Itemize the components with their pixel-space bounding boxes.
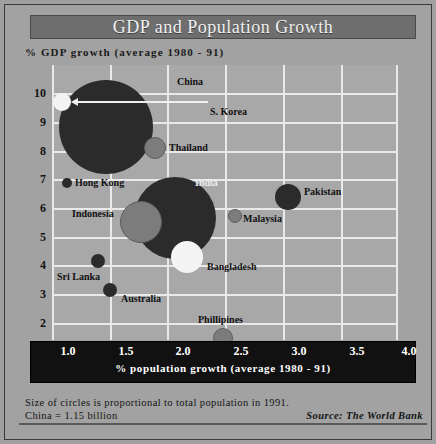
- plot-area: China S. Korea Thailand Hong Kong India …: [52, 65, 398, 340]
- bubble-thailand[interactable]: [144, 137, 166, 159]
- x-tick-2.0: 2.0: [176, 344, 191, 359]
- y-tick-9: 9: [16, 115, 46, 130]
- chart-page: GDP and Population Growth % GDP growth (…: [0, 0, 436, 444]
- bubble-china[interactable]: [59, 80, 153, 174]
- x-tick-3.5: 3.5: [350, 344, 365, 359]
- page-title: GDP and Population Growth: [113, 18, 333, 36]
- bubble-hongkong[interactable]: [62, 178, 72, 188]
- y-tick-7: 7: [16, 172, 46, 187]
- y-tick-5: 5: [16, 230, 46, 245]
- bubble-bangladesh[interactable]: [171, 241, 203, 273]
- footnote-line1: Size of circles is proportional to total…: [25, 397, 423, 408]
- y-tick-2: 2: [16, 316, 46, 331]
- y-tick-6: 6: [16, 201, 46, 216]
- gridline-v-3.5: [341, 65, 343, 340]
- chart-footnote: Size of circles is proportional to total…: [25, 397, 423, 421]
- bubble-indonesia[interactable]: [120, 201, 162, 243]
- label-srilanka: Sri Lanka: [57, 271, 100, 282]
- label-malaysia: Malaysia: [243, 213, 282, 224]
- label-phillipines: Phillipines: [198, 314, 243, 325]
- x-tick-2.5: 2.5: [234, 344, 249, 359]
- y-tick-3: 3: [16, 287, 46, 302]
- label-india: India: [195, 177, 218, 188]
- label-bangladesh: Bangladesh: [207, 261, 256, 272]
- y-tick-8: 8: [16, 144, 46, 159]
- footer-divider: [19, 423, 427, 425]
- chart-frame: GDP and Population Growth % GDP growth (…: [4, 4, 432, 440]
- x-tick-1.5: 1.5: [119, 344, 134, 359]
- bubble-malaysia[interactable]: [228, 209, 242, 223]
- gridline-v-4.0: [396, 65, 398, 340]
- gridline-h-5: [52, 237, 398, 239]
- bubble-australia[interactable]: [103, 283, 117, 297]
- x-tick-1.0: 1.0: [61, 344, 76, 359]
- label-thailand: Thailand: [169, 142, 208, 153]
- y-tick-10: 10: [16, 86, 46, 101]
- footnote-source: Source: The World Bank: [306, 410, 423, 421]
- skorea-arrow-head: [71, 98, 78, 106]
- footnote-line2: China = 1.15 billion: [25, 410, 118, 421]
- x-axis-caption: % population growth (average 1980 - 91): [31, 362, 415, 374]
- x-tick-3.0: 3.0: [292, 344, 307, 359]
- bubble-skorea[interactable]: [53, 93, 71, 111]
- x-axis-strip: 1.0 1.5 2.0 2.5 3.0 3.5 4.0 % population…: [30, 341, 416, 383]
- y-axis-caption: % GDP growth (average 1980 - 91): [25, 46, 224, 58]
- bubble-pakistan[interactable]: [275, 184, 301, 210]
- chart-title-bar: GDP and Population Growth: [30, 15, 416, 39]
- label-china: China: [177, 76, 203, 87]
- bubble-srilanka[interactable]: [91, 254, 105, 268]
- x-tick-4.0: 4.0: [402, 344, 417, 359]
- label-australia: Australia: [121, 293, 161, 304]
- label-skorea: S. Korea: [210, 106, 247, 117]
- y-tick-4: 4: [16, 258, 46, 273]
- skorea-leader-line: [73, 101, 208, 103]
- label-indonesia: Indonesia: [72, 208, 114, 219]
- label-pakistan: Pakistan: [304, 186, 341, 197]
- label-hongkong: Hong Kong: [75, 177, 124, 188]
